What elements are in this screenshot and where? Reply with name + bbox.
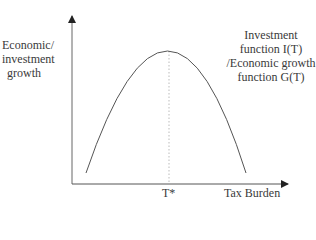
curve-label-line: Investment — [226, 28, 316, 42]
curve-label-line: function I(T) — [226, 42, 316, 56]
y-axis-label: Economic/ investment growth — [2, 38, 70, 80]
growth-curve — [86, 51, 246, 173]
y-axis-label-line: growth — [2, 66, 70, 80]
curve-label-line: /Economic growth — [226, 56, 316, 70]
y-axis-label-line: investment — [2, 52, 70, 66]
optimum-marker-label: T* — [162, 186, 175, 200]
curve-label-line: function G(T) — [226, 70, 316, 84]
y-axis-label-line: Economic/ — [2, 38, 70, 52]
curve-label: Investment function I(T) /Economic growt… — [226, 28, 316, 84]
x-axis-label: Tax Burden — [224, 186, 280, 200]
